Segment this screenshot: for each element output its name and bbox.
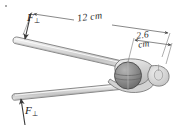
physics-figure-pliers-torque: F⊥ F⊥ 12 cm 2.6 cm <box>0 0 179 135</box>
force-symbol-bottom: F <box>25 104 32 116</box>
force-subscript-top: ⊥ <box>34 17 40 25</box>
dimension-label-jaw-width: 2.6 cm <box>136 30 151 49</box>
tool-head <box>108 59 169 93</box>
force-subscript-bottom: ⊥ <box>32 110 38 118</box>
force-label-top: F⊥ <box>27 11 40 25</box>
force-symbol-top: F <box>27 11 34 23</box>
force-label-bottom: F⊥ <box>25 104 38 118</box>
jaw-width-unit: cm <box>137 39 150 49</box>
